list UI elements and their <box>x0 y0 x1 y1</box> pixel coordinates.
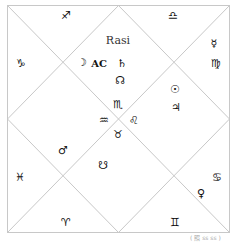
saturn-icon: ♄ <box>117 58 127 69</box>
sign-aries-icon: ♈ <box>61 217 71 228</box>
sign-taurus-icon: ♉ <box>113 129 123 140</box>
chart-caption: ( 照 ss ss ) <box>190 233 221 242</box>
jupiter-icon: ♃ <box>171 102 181 113</box>
moon-icon: ☽ <box>77 57 87 68</box>
mercury-icon: ☿ <box>211 38 218 49</box>
mars-icon: ♂ <box>58 145 68 156</box>
sign-pisces-icon: ♓ <box>15 172 25 183</box>
chart-title: Rasi <box>106 34 130 47</box>
sign-libra-icon: ♎ <box>168 10 178 21</box>
ascendant-label: AC <box>91 58 107 69</box>
sign-scorpio-icon: ♏ <box>113 99 123 110</box>
rahu-icon: ☊ <box>115 75 125 86</box>
sign-leo-icon: ♌ <box>129 115 139 126</box>
sign-virgo-icon: ♍ <box>211 58 221 69</box>
sign-cancer-icon: ♋ <box>212 172 222 183</box>
ketu-icon: ☋ <box>98 160 108 171</box>
venus-icon: ♀ <box>197 188 205 199</box>
sign-gemini-icon: ♊ <box>170 217 180 228</box>
sign-capricorn-icon: ♑ <box>16 58 26 69</box>
sign-aquarius-icon: ♒ <box>99 115 109 126</box>
sign-sagittarius-icon: ♐ <box>61 10 71 21</box>
sun-icon: ☉ <box>170 84 180 95</box>
